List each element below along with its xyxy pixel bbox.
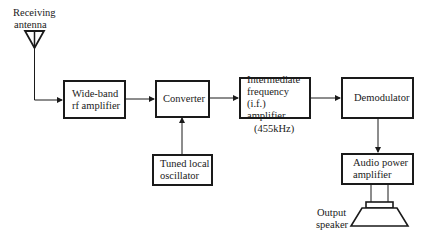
speaker-label-line2: speaker	[316, 219, 348, 231]
speaker-label-line1: Output	[316, 207, 348, 219]
speaker-icon	[351, 202, 408, 226]
block-label: Wide-band rf amplifier	[65, 88, 120, 112]
diagram-canvas	[0, 0, 433, 240]
antenna-label-line2: antenna	[13, 19, 56, 31]
block-rf-amplifier: Wide-band rf amplifier	[63, 80, 126, 119]
block-label: Audio power amplifier	[343, 157, 408, 181]
block-if-amplifier: Intermediate frequency (i.f.) amplifier	[239, 77, 311, 119]
block-label: Demodulator	[343, 92, 409, 104]
block-local-oscillator: Tuned local oscillator	[152, 154, 213, 186]
block-demodulator: Demodulator	[341, 77, 414, 119]
block-label: Intermediate frequency (i.f.) amplifier	[241, 74, 309, 122]
speaker-label: Output speaker	[316, 207, 348, 231]
block-audio-amplifier: Audio power amplifier	[341, 153, 414, 185]
if-frequency-note: (455kHz)	[254, 123, 294, 135]
antenna-label: Receiving antenna	[13, 7, 56, 31]
antenna-icon	[25, 31, 44, 48]
block-converter: Converter	[155, 80, 210, 118]
antenna-label-line1: Receiving	[13, 7, 56, 19]
connector-antenna-rf	[35, 48, 63, 100]
block-label: Tuned local oscillator	[154, 158, 210, 182]
block-label: Converter	[157, 93, 205, 105]
